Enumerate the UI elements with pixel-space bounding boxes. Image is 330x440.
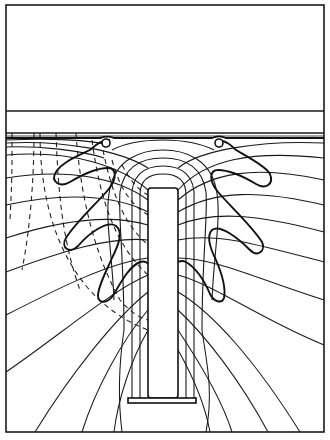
diagram-canvas xyxy=(0,0,330,440)
ring-right xyxy=(215,139,223,147)
top-surface-contour xyxy=(6,137,324,139)
ring-left xyxy=(102,139,110,147)
equipotential-lines xyxy=(10,133,148,330)
field-lines-right xyxy=(178,142,324,432)
field-diagram xyxy=(0,0,330,440)
field-lines-left xyxy=(6,142,148,432)
base-contour-right xyxy=(202,330,209,432)
base-plate xyxy=(128,398,196,403)
base-contour-left xyxy=(119,330,124,432)
electrode xyxy=(148,188,178,398)
